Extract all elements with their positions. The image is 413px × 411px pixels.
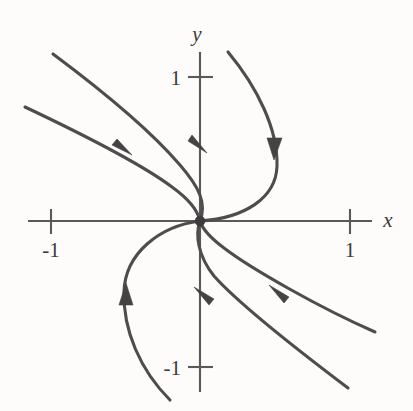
trajectory-lower-left <box>124 221 200 400</box>
phase-portrait-canvas: x y -1 1 1 -1 <box>0 0 413 411</box>
y-axis-tick-label-positive-one: 1 <box>171 66 182 90</box>
trajectory-upper-left-inner <box>25 107 200 221</box>
x-axis-tick-label-negative-one: -1 <box>42 238 60 262</box>
x-axis-label: x <box>382 208 393 232</box>
x-axis-tick-label-positive-one: 1 <box>345 238 356 262</box>
flow-arrow-lower-right-inner-icon <box>194 287 214 305</box>
flow-arrow-lower-left-icon <box>119 283 133 305</box>
phase-portrait-figure: x y -1 1 1 -1 <box>0 0 413 411</box>
flow-arrow-upper-left-outer-icon <box>188 135 207 153</box>
equilibrium-point-dot <box>195 216 205 226</box>
y-axis-label: y <box>190 22 202 46</box>
flow-arrow-upper-right-icon <box>267 138 282 160</box>
y-axis-tick-label-negative-one: -1 <box>164 356 182 380</box>
labels-group: x y -1 1 1 -1 <box>42 22 393 380</box>
